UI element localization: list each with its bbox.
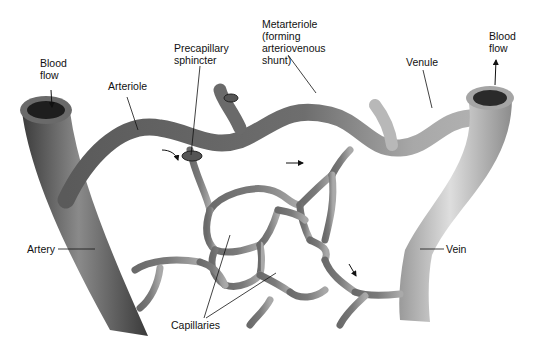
artery-lumen bbox=[27, 101, 65, 119]
label-arteriole: Arteriole bbox=[108, 80, 147, 92]
label-vein: Vein bbox=[446, 243, 466, 255]
arteriole-metarteriole-vessel bbox=[66, 90, 500, 200]
flow-arrow-icon bbox=[162, 150, 178, 160]
label-blood-flow-out: Blood flow bbox=[489, 30, 516, 54]
label-blood-flow-in: Blood flow bbox=[40, 57, 67, 81]
label-venule: Venule bbox=[406, 56, 438, 68]
label-metarteriole: Metarteriole (forming arteriovenous shun… bbox=[262, 18, 326, 66]
vein-lumen bbox=[473, 90, 507, 106]
label-capillaries: Capillaries bbox=[171, 319, 220, 331]
flow-arrow-icon bbox=[495, 60, 496, 85]
capillary-network bbox=[135, 150, 400, 325]
microcirculation-diagram: Blood flow Arteriole Precapillary sphinc… bbox=[0, 0, 534, 358]
flow-arrow-icon bbox=[349, 264, 356, 276]
label-precapillary-sphincter: Precapillary sphincter bbox=[174, 42, 229, 66]
label-artery: Artery bbox=[27, 243, 55, 255]
